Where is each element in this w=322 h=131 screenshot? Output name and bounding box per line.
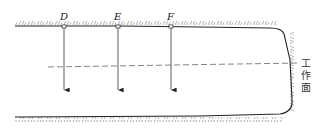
tunnel-outline [15, 26, 292, 117]
working-face-char-2: 作 [301, 70, 311, 81]
top-wall-hatching [15, 21, 277, 26]
tunnel-diagram: D E F 工 作 面 [0, 0, 322, 131]
point-d-label: D [59, 11, 68, 22]
point-f-label: F [166, 11, 175, 22]
point-f-marker [169, 25, 173, 28]
working-face-char-3: 面 [301, 82, 311, 93]
point-e-label: E [113, 11, 122, 22]
dashed-center-line [48, 63, 300, 67]
working-face-label: 工 作 面 [301, 58, 311, 93]
point-e-marker [116, 25, 120, 28]
working-face-char-1: 工 [301, 58, 311, 69]
bottom-wall-hatching [15, 117, 283, 122]
point-d-marker [62, 25, 66, 28]
